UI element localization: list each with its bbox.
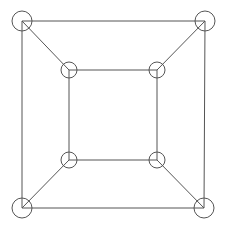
cube-graph-diagram (0, 0, 227, 232)
edges-group (22, 21, 205, 208)
edge-outer-top-right-outer-bottom-right (204, 21, 205, 208)
graph-svg (0, 0, 227, 232)
